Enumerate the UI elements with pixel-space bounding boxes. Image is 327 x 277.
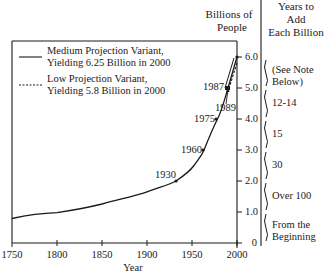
y-axis-tick-labels: 6.0 5.0 4.0 3.0 2.0 1.0 0 (245, 51, 258, 248)
y-tick-0: 0 (252, 237, 257, 248)
years-4-5-billion: 12-14 (272, 97, 297, 108)
legend-low-line1: Low Projection Variant, (47, 73, 147, 84)
legend-medium-line1: Medium Projection Variant, (47, 45, 164, 56)
x-tick-1800: 1800 (47, 249, 68, 260)
legend: Medium Projection Variant, Yielding 6.25… (19, 45, 170, 96)
x-tick-1900: 1900 (137, 249, 158, 260)
years-2-3-billion: 30 (272, 159, 283, 170)
x-axis-tick-labels: 1750 1800 1850 1900 1950 2000 (2, 249, 248, 260)
years-0-1-line2: Beginning (272, 231, 316, 242)
legend-low-line2: Yielding 5.8 Billion in 2000 (47, 85, 165, 96)
years-3-4-billion: 15 (272, 128, 283, 139)
y-tick-5: 5.0 (245, 82, 258, 93)
brace-marks (265, 60, 268, 241)
annotation-1975: 1975 (194, 113, 215, 124)
right-panel-title-line1: Years to (278, 0, 314, 12)
x-tick-1950: 1950 (182, 249, 203, 260)
right-panel-title-line3: Each Billion (268, 26, 324, 38)
right-panel-title-line2: Add (287, 13, 306, 25)
years-0-1-line1: From the (272, 219, 311, 230)
y-tick-1: 1.0 (245, 206, 258, 217)
y-axis-label-line2: People (217, 21, 247, 33)
annotation-1930: 1930 (155, 169, 176, 180)
y-axis-label-line1: Billions of (206, 8, 253, 20)
annotation-1987: 1987 (203, 81, 224, 92)
x-tick-1750: 1750 (2, 249, 23, 260)
population-chart: 1750 1800 1850 1900 1950 2000 Year 6.0 5… (0, 0, 327, 277)
y-tick-4: 4.0 (245, 113, 258, 124)
year-annotations: 1930 1960 1975 1987 1989 (155, 81, 236, 180)
years-note-line1: (See Note (272, 64, 314, 76)
annotation-1960: 1960 (181, 144, 202, 155)
right-panel-entries: (See Note Below) 12-14 15 30 Over 100 Fr… (272, 64, 316, 242)
y-tick-3: 3.0 (245, 144, 258, 155)
point-2000 (235, 55, 238, 58)
y-axis-ticks (237, 57, 242, 212)
legend-medium-line2: Yielding 6.25 Billion in 2000 (47, 57, 170, 68)
x-axis-label: Year (123, 262, 143, 273)
annotation-1989: 1989 (215, 102, 236, 113)
x-tick-1850: 1850 (92, 249, 113, 260)
y-tick-6: 6.0 (245, 51, 258, 62)
years-1-2-billion: Over 100 (272, 190, 311, 201)
y-tick-2: 2.0 (245, 175, 258, 186)
years-note-line2: Below) (272, 76, 303, 88)
x-tick-2000: 2000 (227, 249, 248, 260)
